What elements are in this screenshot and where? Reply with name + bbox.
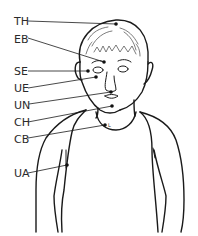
hair-outline <box>79 20 148 62</box>
neck-right <box>134 100 135 116</box>
point-label-ua: UA <box>14 168 30 179</box>
leader-line-ch <box>28 106 112 122</box>
tapping-point-dot-ue <box>94 75 98 79</box>
right-eyebrow <box>118 60 131 62</box>
right-arm-inner <box>154 150 166 232</box>
tapping-point-dot-th <box>114 22 118 26</box>
shirt-strap-right <box>140 112 158 232</box>
left-arm-inner <box>54 150 62 232</box>
shirt-strap-left <box>62 110 87 232</box>
leader-line-cb <box>28 125 105 138</box>
point-label-eb: EB <box>14 34 29 45</box>
tapping-point-dot-se <box>86 69 90 73</box>
mouth <box>105 95 118 99</box>
point-label-ue: UE <box>14 83 29 94</box>
right-shoulder <box>140 112 184 232</box>
point-label-se: SE <box>14 66 28 77</box>
right-eye <box>118 66 128 72</box>
tapping-point-dot-ua <box>65 163 69 167</box>
leader-line-un <box>29 92 111 104</box>
point-label-ch: CH <box>14 117 30 128</box>
point-label-cb: CB <box>14 134 29 145</box>
face-left-outline <box>80 62 120 113</box>
left-eye <box>93 67 103 73</box>
tapping-points-diagram: L THEBSEUEUNCHCBUA <box>0 0 198 236</box>
shirt-neckline <box>96 112 136 130</box>
leader-line-ua <box>28 165 67 173</box>
point-label-th: TH <box>14 16 29 27</box>
tapping-point-dot-un <box>109 90 113 94</box>
tapping-point-dot-ch <box>110 104 114 108</box>
leader-line-ue <box>28 77 96 88</box>
point-label-un: UN <box>14 100 30 111</box>
tapping-point-dot-eb <box>102 60 106 64</box>
nose <box>105 72 116 92</box>
collarbone-side-mark: L <box>108 122 111 128</box>
leader-line-eb <box>28 38 104 62</box>
tapping-point-dot-cb <box>103 123 107 127</box>
